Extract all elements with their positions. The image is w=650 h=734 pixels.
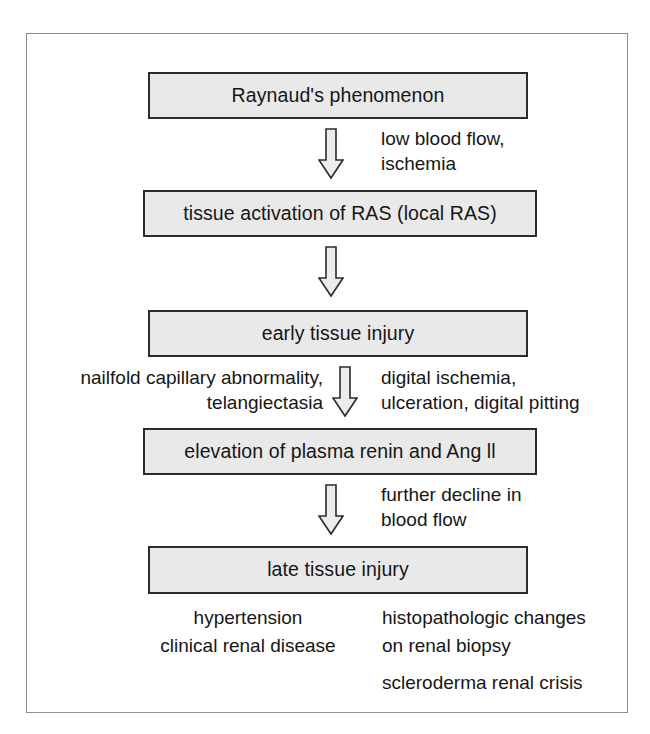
flow-node-label: tissue activation of RAS (local RAS)	[183, 203, 497, 224]
edge-label-nailfold-capillary-abnormality: nailfold capillary abnormality, telangie…	[48, 365, 323, 416]
edge-label-line: blood flow	[381, 507, 621, 532]
flow-node-label: Raynaud's phenomenon	[232, 85, 445, 106]
flow-node-label: elevation of plasma renin and Ang ll	[184, 441, 495, 462]
down-block-arrow-icon	[318, 484, 344, 536]
edge-label-line: ulceration, digital pitting	[381, 390, 626, 415]
down-block-arrow-icon	[318, 128, 344, 180]
outcome-item: hypertension	[108, 604, 388, 632]
down-block-arrow-icon	[318, 246, 344, 298]
flow-node-late-tissue-injury: late tissue injury	[148, 546, 528, 594]
flow-node-label: late tissue injury	[267, 559, 409, 580]
flow-node-raynauds-phenomenon: Raynaud's phenomenon	[148, 72, 528, 119]
flow-node-elevation-of-plasma-renin: elevation of plasma renin and Ang ll	[143, 428, 537, 475]
edge-label-digital-ischemia: digital ischemia, ulceration, digital pi…	[381, 365, 626, 416]
outcome-item: clinical renal disease	[108, 632, 388, 660]
edge-label-further-decline-in-blood-flow: further decline in blood flow	[381, 482, 621, 533]
edge-label-line: low blood flow,	[381, 126, 621, 151]
outcome-item: scleroderma renal crisis	[382, 669, 622, 697]
edge-label-line: further decline in	[381, 482, 621, 507]
diagram-canvas: Raynaud's phenomenon low blood flow, isc…	[0, 0, 650, 734]
edge-label-low-blood-flow: low blood flow, ischemia	[381, 126, 621, 177]
edge-label-line: telangiectasia	[48, 390, 323, 415]
edge-label-line: digital ischemia,	[381, 365, 626, 390]
flow-node-label: early tissue injury	[262, 323, 415, 344]
flow-node-early-tissue-injury: early tissue injury	[148, 310, 528, 357]
outcome-item: on renal biopsy	[382, 632, 622, 660]
outcomes-section: hypertension clinical renal disease hist…	[60, 604, 600, 700]
edge-label-line: nailfold capillary abnormality,	[48, 365, 323, 390]
edge-label-line: ischemia	[381, 151, 621, 176]
flow-node-tissue-activation-of-ras: tissue activation of RAS (local RAS)	[143, 190, 537, 237]
outcomes-column-clinical: hypertension clinical renal disease	[108, 604, 388, 659]
outcome-item: histopathologic changes	[382, 604, 622, 632]
down-block-arrow-icon	[332, 366, 358, 418]
outcomes-column-pathologic: histopathologic changes on renal biopsy …	[382, 604, 622, 697]
